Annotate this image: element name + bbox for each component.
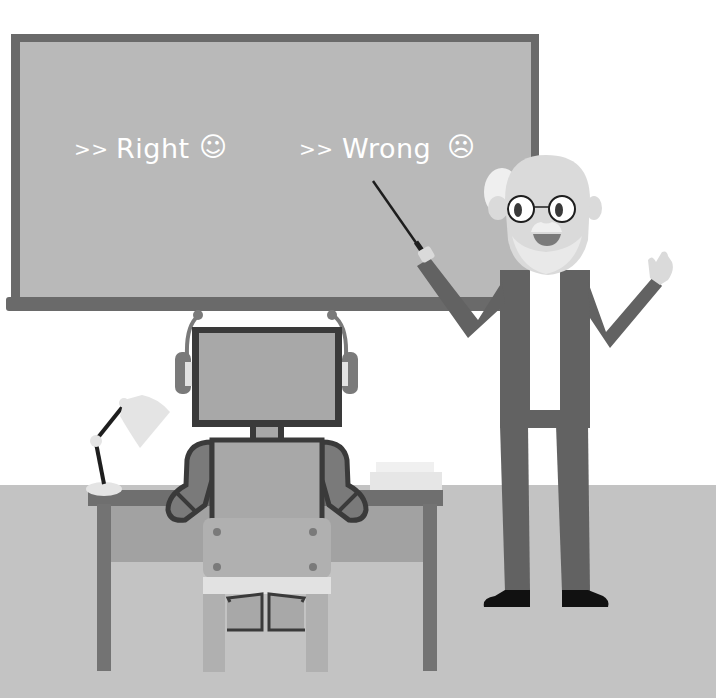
chalkboard: >> Right ☺ >> Wrong ☹ [6,34,540,311]
lamp-joint [90,435,102,447]
professor-arm-right [588,276,662,348]
desk-leg-left [97,504,111,671]
chair-seat-band [203,577,331,594]
chair-leg-right [306,594,328,672]
lamp-base [86,482,122,496]
desk-leg-right [423,504,437,671]
headphone-hook-right [327,310,337,320]
chair-leg-left [203,594,225,672]
chair-rivet [213,563,221,571]
paper-stack [370,472,442,490]
smiley-face-icon: ☺ [199,131,228,162]
robot-neck-inner [256,427,278,439]
frowning-face-icon: ☹ [447,131,476,162]
lamp-shade [120,395,170,448]
arrow-prefix: >> [74,137,109,161]
robot [168,310,366,526]
label-wrong: Wrong [342,133,431,164]
chair-rivet [309,528,317,536]
robot-torso [212,440,322,526]
desk-lamp [86,395,170,496]
board-surface [20,42,531,298]
lamp-arm-upper [96,405,124,440]
robot-screen [199,333,335,420]
classroom-scene: >> Right ☺ >> Wrong ☹ [0,0,716,698]
chair-rivet [309,563,317,571]
eye-right [555,203,563,217]
robot-leg-right [268,594,304,630]
chair-rivet [213,528,221,536]
label-right: Right [116,133,190,164]
robot-leg-left [227,594,263,630]
professor-leg-left [500,425,530,592]
lamp-arm-lower [96,443,104,484]
professor-shirt [530,270,560,410]
eye-left [514,203,522,217]
arrow-prefix: >> [299,137,334,161]
paper-stack-top [376,462,434,472]
headphone-hook-left [193,310,203,320]
professor-ear-left [488,196,508,220]
